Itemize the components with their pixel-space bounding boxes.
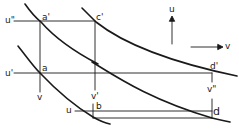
- arrow-v-head: [218, 45, 223, 50]
- diagram-lines: [0, 0, 239, 130]
- level-label-u-prime: u': [5, 69, 13, 78]
- level-label-v-double-prime: v": [207, 85, 216, 94]
- arrow-u-head: [170, 16, 175, 21]
- axis-label-u: u: [169, 5, 175, 14]
- point-label-b: b: [96, 102, 102, 111]
- point-label-c-prime: c': [96, 13, 103, 22]
- point-label-a-prime: a': [42, 13, 50, 22]
- level-label-v: v: [37, 93, 42, 102]
- level-label-v-prime: v': [91, 92, 99, 101]
- diagram: u v a' c' a d' b d u" u' u v v' v": [0, 0, 239, 130]
- point-label-a: a: [42, 64, 48, 73]
- point-label-d-prime: d': [210, 62, 218, 71]
- point-label-d: d: [213, 106, 220, 117]
- axis-label-v: v: [225, 42, 230, 51]
- level-label-u: u: [66, 106, 72, 115]
- level-label-u-double-prime: u": [5, 16, 15, 25]
- curve-3: [18, 46, 110, 124]
